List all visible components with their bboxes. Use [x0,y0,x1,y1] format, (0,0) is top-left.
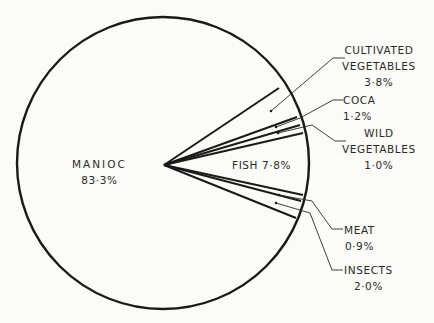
dot-cultivated [270,110,273,113]
label-cultivated-line1: CULTIVATED [342,42,416,58]
dot-insects [275,202,278,205]
dot-coca [275,126,278,129]
label-fish: FISH 7·8% [232,157,291,173]
dot-wild [277,132,280,135]
label-cultivated-line2: VEGETABLES [342,58,416,74]
label-coca: COCA 1·2% [343,92,376,124]
label-insects-value: 2·0% [344,278,393,294]
label-meat-name: MEAT [344,222,375,238]
label-meat: MEAT 0·9% [344,222,375,254]
dot-meat [278,194,281,197]
label-insects-name: INSECTS [344,262,393,278]
label-wild-value: 1·0% [342,157,416,173]
label-cultivated-value: 3·8% [342,74,416,90]
label-manioc-value: 83·3% [72,172,127,188]
label-wild-vegetables: WILD VEGETABLES 1·0% [342,125,416,173]
label-insects: INSECTS 2·0% [344,262,393,294]
label-wild-line2: VEGETABLES [342,141,416,157]
label-cultivated-vegetables: CULTIVATED VEGETABLES 3·8% [342,42,416,90]
label-meat-value: 0·9% [344,238,375,254]
label-coca-name: COCA [343,92,376,108]
label-wild-line1: WILD [342,125,416,141]
label-coca-value: 1·2% [343,108,376,124]
label-manioc: MANIOC 83·3% [72,156,127,188]
label-manioc-name: MANIOC [72,156,127,172]
